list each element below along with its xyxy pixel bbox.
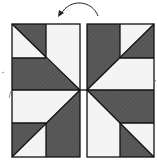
left-small-triangle-mark <box>9 91 11 98</box>
quilt-block-diagram <box>0 0 157 164</box>
right-half-block <box>87 24 154 157</box>
left-half-block <box>12 24 80 157</box>
rotate-arrow-icon <box>58 3 98 17</box>
left-edge-mark <box>2 72 4 73</box>
